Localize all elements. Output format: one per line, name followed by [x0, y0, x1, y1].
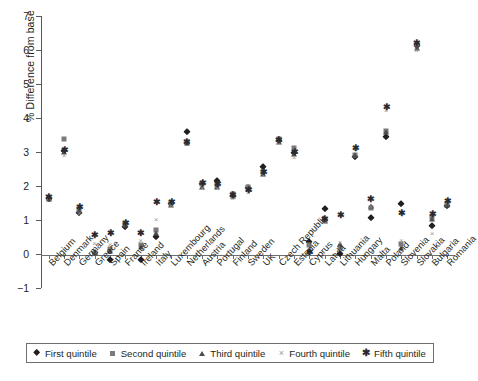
- y-tick: 7: [36, 16, 41, 17]
- data-point: [153, 230, 159, 235]
- x-axis-category-labels: BelgiumDenmarkGermanyGreeceSpainFranceIr…: [41, 255, 455, 337]
- data-point: ✱: [61, 147, 68, 154]
- diamond-marker-icon: [32, 348, 42, 358]
- data-point: ✱: [291, 149, 298, 156]
- y-tick-label: 6: [23, 45, 29, 56]
- data-point: [62, 137, 67, 142]
- data-point: ✱: [429, 210, 436, 217]
- square-marker-icon: [108, 348, 118, 358]
- y-tick: 1: [36, 220, 41, 221]
- legend-item-third-quintile[interactable]: Third quintile: [197, 348, 265, 359]
- y-tick-label: 5: [23, 79, 29, 90]
- y-tick-label: −1: [17, 283, 29, 294]
- data-point: ×: [153, 216, 160, 223]
- y-tick: 5: [36, 84, 41, 85]
- y-tick-label: 4: [23, 113, 29, 124]
- y-tick: 2: [36, 186, 41, 187]
- data-point: ✱: [76, 204, 83, 211]
- legend-item-fifth-quintile[interactable]: ✱Fifth quintile: [361, 348, 426, 359]
- data-point: ✱: [122, 219, 129, 226]
- data-point: [383, 129, 389, 134]
- data-point: ✱: [337, 211, 344, 218]
- legend-item-first-quintile[interactable]: First quintile: [32, 348, 97, 359]
- data-point: ✱: [413, 40, 420, 47]
- y-tick-label: 7: [23, 11, 29, 22]
- data-point: ✱: [183, 138, 190, 145]
- y-tick: 3: [36, 152, 41, 153]
- data-point: ✱: [398, 209, 405, 216]
- data-point: ✱: [137, 229, 144, 236]
- legend-item-label: Fourth quintile: [289, 348, 350, 359]
- y-tick: 4: [36, 118, 41, 119]
- data-point: ✱: [444, 198, 451, 205]
- data-point: ✱: [383, 104, 390, 111]
- data-point: ✱: [260, 168, 267, 175]
- data-point: [183, 128, 191, 136]
- legend-item-fourth-quintile[interactable]: ×Fourth quintile: [276, 348, 350, 359]
- y-tick-label: 2: [23, 181, 29, 192]
- data-point: ✱: [199, 180, 206, 187]
- data-point: [382, 134, 390, 142]
- legend-item-label: Fifth quintile: [374, 348, 426, 359]
- star-marker-icon: ✱: [361, 348, 371, 358]
- triangle-marker-icon: [197, 348, 207, 358]
- data-point: ×: [429, 229, 436, 236]
- data-point: ✱: [275, 136, 282, 143]
- y-axis-line: [41, 16, 42, 288]
- x-marker-icon: ×: [276, 348, 286, 358]
- data-point: ✱: [367, 195, 374, 202]
- legend-item-label: Second quintile: [121, 348, 187, 359]
- data-point: ✱: [245, 187, 252, 194]
- legend-item-second-quintile[interactable]: Second quintile: [108, 348, 187, 359]
- data-point: ✱: [214, 180, 221, 187]
- chart-legend: First quintileSecond quintileThird quint…: [26, 343, 434, 363]
- data-point: ✱: [45, 193, 52, 200]
- data-point: ✱: [229, 191, 236, 198]
- y-tick: 6: [36, 50, 41, 51]
- legend-item-label: First quintile: [45, 348, 97, 359]
- data-point: ✱: [168, 199, 175, 206]
- data-point: ✱: [153, 198, 160, 205]
- y-tick-label: 3: [23, 147, 29, 158]
- data-point: ✱: [352, 144, 359, 151]
- y-tick-label: 0: [23, 249, 29, 260]
- legend-item-label: Third quintile: [210, 348, 265, 359]
- y-tick-label: 1: [23, 215, 29, 226]
- data-point: [367, 214, 375, 222]
